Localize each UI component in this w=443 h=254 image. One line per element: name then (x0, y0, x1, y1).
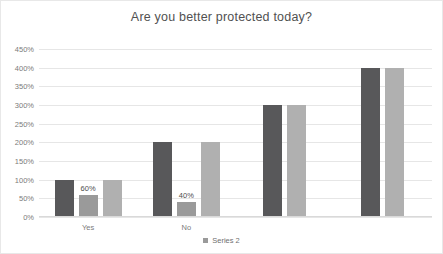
y-axis-tick-label: 450% (15, 45, 34, 54)
bar-data-label: 60% (81, 184, 96, 193)
y-axis-tick-label: 400% (15, 63, 34, 72)
bar-group: 60%Yes (55, 49, 122, 217)
chart-container: Are you better protected today? 0%50%100… (0, 0, 443, 254)
bar[interactable]: 60% (79, 195, 98, 217)
y-axis-tick-label: 200% (15, 138, 34, 147)
bar[interactable] (385, 68, 404, 217)
bar[interactable] (361, 68, 380, 217)
chart-legend: Series 2 (1, 236, 442, 245)
x-axis-category-label: Yes (55, 223, 122, 232)
bar[interactable] (201, 142, 220, 217)
axis-baseline (39, 216, 432, 217)
legend-label-series-2: Series 2 (212, 236, 240, 245)
y-axis-tick-label: 300% (15, 101, 34, 110)
y-axis-tick-label: 350% (15, 82, 34, 91)
y-axis-tick-label: 250% (15, 119, 34, 128)
x-axis-category-label: No (153, 223, 220, 232)
y-axis-tick-label: 150% (15, 157, 34, 166)
bar-group: 40%No (153, 49, 220, 217)
chart-title: Are you better protected today? (1, 10, 442, 24)
bar[interactable] (103, 180, 122, 217)
y-axis-tick-label: 0% (23, 213, 34, 222)
bar[interactable] (153, 142, 172, 217)
bar[interactable] (287, 105, 306, 217)
bar-group (361, 49, 404, 217)
y-axis-tick-label: 50% (19, 194, 34, 203)
bar[interactable]: 40% (177, 202, 196, 217)
gridline (39, 217, 432, 218)
bar[interactable] (263, 105, 282, 217)
bar-group (263, 49, 306, 217)
y-axis-tick-label: 100% (15, 175, 34, 184)
bar[interactable] (55, 180, 74, 217)
plot-area: 0%50%100%150%200%250%300%350%400%450% 60… (39, 49, 432, 217)
bar-data-label: 40% (179, 191, 194, 200)
legend-swatch-series-2 (203, 238, 208, 243)
